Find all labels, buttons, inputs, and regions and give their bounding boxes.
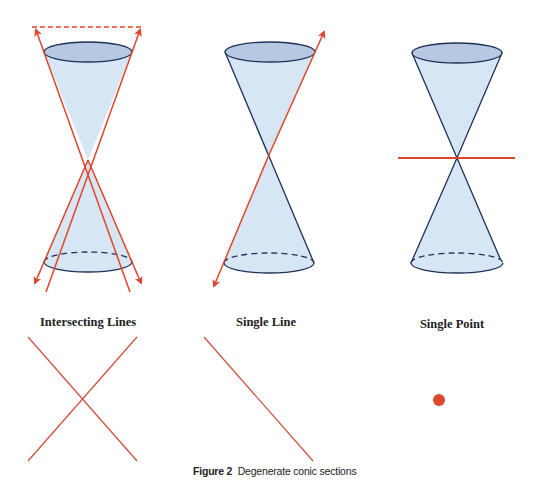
panel-title-single-line: Single Line (236, 315, 296, 330)
cone-single-line (214, 32, 324, 286)
result-single-point (433, 394, 445, 406)
panel-title-single-point: Single Point (420, 317, 484, 332)
caption-text: Degenerate conic sections (238, 465, 357, 477)
result-intersecting-lines (28, 337, 137, 461)
panel-title-intersecting-lines: Intersecting Lines (40, 315, 136, 330)
cone-intersecting-lines (32, 27, 143, 292)
result-single-line (204, 337, 313, 461)
degenerate-conics-figure (0, 0, 542, 496)
caption-label: Figure 2 (193, 465, 232, 477)
cone-single-point (398, 43, 515, 273)
figure-caption: Figure 2 Degenerate conic sections (193, 465, 356, 477)
